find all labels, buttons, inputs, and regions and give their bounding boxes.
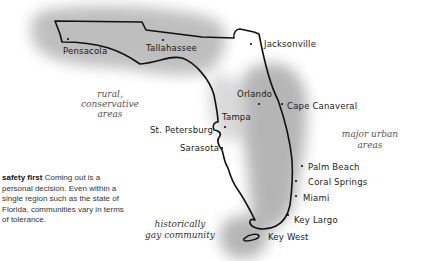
city-label-pensacola: Pensacola	[63, 46, 107, 56]
city-label-key-largo: Key Largo	[294, 215, 338, 225]
urban-line-2: areas	[358, 140, 383, 150]
city-label-miami: Miami	[303, 193, 330, 203]
rural-annotation: rural, conservative areas	[81, 89, 139, 119]
urban-line-1: major urban	[342, 129, 398, 139]
city-label-cape-canaveral: Cape Canaveral	[287, 101, 357, 111]
city-label-key-west: Key West	[268, 232, 309, 242]
caption-lead: safety first	[2, 173, 42, 182]
city-label-st-petersburg: St. Petersburg	[150, 125, 213, 135]
tampa-light-shade	[209, 74, 246, 142]
city-label-orlando: Orlando	[237, 89, 272, 99]
historic-annotation: historically gay community	[145, 219, 216, 240]
city-label-tallahassee: Tallahassee	[145, 43, 197, 53]
city-label-sarasota: Sarasota	[180, 143, 219, 153]
rural-line-3: areas	[98, 109, 123, 119]
urban-annotation: major urban areas	[342, 129, 398, 150]
historic-line-1: historically	[155, 219, 207, 229]
key-west-shade	[220, 216, 268, 259]
panhandle-rural-shade	[31, 6, 226, 75]
city-label-tampa: Tampa	[221, 112, 251, 122]
historic-line-2: gay community	[145, 230, 216, 240]
rural-line-1: rural,	[97, 89, 123, 99]
city-label-jacksonville: Jacksonville	[263, 39, 316, 49]
caption: safety first Coming out is a personal de…	[2, 173, 130, 226]
city-label-palm-beach: Palm Beach	[308, 162, 360, 172]
rural-line-2: conservative	[81, 99, 139, 109]
city-label-coral-springs: Coral Springs	[308, 177, 368, 187]
